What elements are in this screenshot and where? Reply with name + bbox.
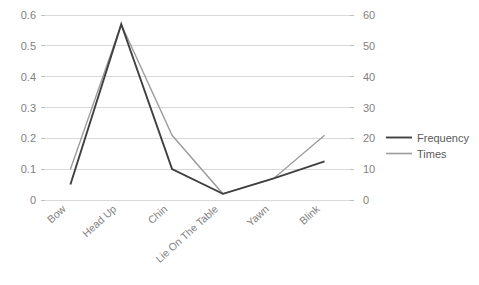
category-label: Head Up <box>80 202 119 239</box>
right-tick-label: 60 <box>363 9 375 21</box>
right-tick-label: 30 <box>363 102 375 114</box>
left-axis-tickmarks <box>41 15 45 200</box>
right-tick-label: 0 <box>363 194 369 206</box>
category-label: Bow <box>45 202 69 225</box>
category-label: Chin <box>145 202 169 225</box>
left-axis-labels: 0.6 0.5 0.4 0.3 0.2 0.1 0 <box>21 9 36 206</box>
right-tick-label: 10 <box>363 163 375 175</box>
left-tick-label: 0 <box>30 194 36 206</box>
left-tick-label: 0.5 <box>21 40 36 52</box>
left-tick-label: 0.6 <box>21 9 36 21</box>
legend-label-times: Times <box>417 148 447 160</box>
chart-canvas: 0.6 0.5 0.4 0.3 0.2 0.1 0 60 50 40 30 20… <box>0 0 479 285</box>
legend-label-frequency: Frequency <box>417 132 469 144</box>
left-tick-label: 0.2 <box>21 132 36 144</box>
chart-legend: Frequency Times <box>386 132 469 160</box>
category-label: Yawn <box>244 202 271 228</box>
right-tick-label: 40 <box>363 71 375 83</box>
line-chart: 0.6 0.5 0.4 0.3 0.2 0.1 0 60 50 40 30 20… <box>0 0 479 285</box>
legend-item-frequency[interactable]: Frequency <box>386 132 469 144</box>
right-axis-tickmarks <box>350 15 354 200</box>
category-label: Blink <box>297 202 322 227</box>
left-tick-label: 0.3 <box>21 102 36 114</box>
right-tick-label: 50 <box>363 40 375 52</box>
category-axis-labels: Bow Head Up Chin Lie On The Table Yawn B… <box>45 202 323 265</box>
left-tick-label: 0.1 <box>21 163 36 175</box>
left-tick-label: 0.4 <box>21 71 36 83</box>
legend-item-times[interactable]: Times <box>386 148 447 160</box>
right-axis-labels: 60 50 40 30 20 10 0 <box>363 9 375 206</box>
right-tick-label: 20 <box>363 132 375 144</box>
